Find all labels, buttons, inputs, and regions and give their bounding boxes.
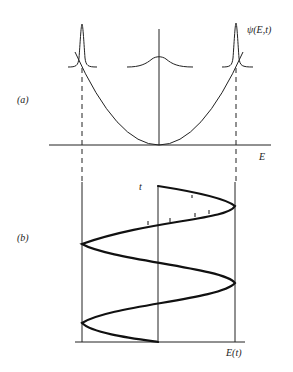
panel-b-label: (b): [17, 232, 29, 244]
panel-a: ψ(E,t) (a) E: [17, 23, 272, 162]
center-wavepacket: [127, 57, 193, 67]
panel-a-label: (a): [17, 94, 29, 106]
energy-axis-label: E: [258, 151, 265, 162]
wavepacket-diagram: ψ(E,t) (a) E t (b) E(t): [0, 0, 293, 372]
panel-b: t (b) E(t): [17, 181, 245, 359]
trajectory-ticks: [148, 195, 209, 225]
trajectory-axis-label: E(t): [225, 347, 242, 359]
left-wavepacket: [68, 24, 97, 67]
wavefunction-label: ψ(E,t): [247, 24, 272, 36]
time-axis-label: t: [139, 181, 142, 192]
